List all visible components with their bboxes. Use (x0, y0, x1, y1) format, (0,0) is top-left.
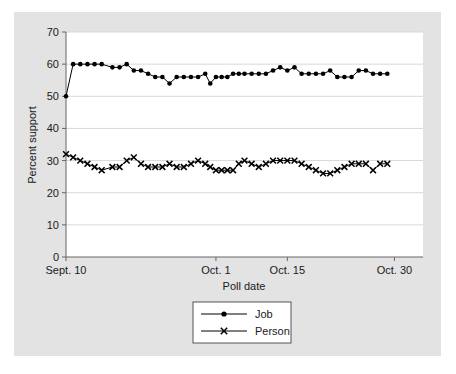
data-point-marker (153, 75, 158, 80)
y-tick-label: 0 (53, 251, 59, 263)
data-point-marker (364, 68, 369, 73)
data-point-marker (271, 68, 276, 73)
data-point-marker (203, 71, 208, 76)
data-point-marker (196, 75, 201, 80)
legend-label: Person (255, 325, 290, 337)
data-point-marker (225, 75, 230, 80)
data-point-marker (256, 71, 261, 76)
poll-support-line-chart: 010203040506070 Sept. 10Oct. 1Oct. 15Oct… (0, 0, 456, 374)
data-point-marker (146, 71, 151, 76)
data-point-marker (285, 68, 290, 73)
y-tick-label: 70 (47, 26, 59, 38)
data-point-marker (219, 75, 224, 80)
data-point-marker (378, 71, 383, 76)
data-point-marker (264, 71, 269, 76)
data-point-marker (221, 311, 226, 316)
data-point-marker (71, 62, 76, 67)
data-point-marker (174, 75, 179, 80)
data-point-marker (132, 68, 137, 73)
data-point-marker (306, 71, 311, 76)
y-tick-label: 50 (47, 90, 59, 102)
data-point-marker (64, 94, 69, 99)
data-point-marker (299, 71, 304, 76)
data-point-marker (117, 65, 122, 70)
x-tick-label: Oct. 30 (377, 264, 412, 276)
x-tick-label: Sept. 10 (46, 264, 87, 276)
data-point-marker (278, 65, 283, 70)
data-point-marker (328, 68, 333, 73)
chart-canvas: 010203040506070 Sept. 10Oct. 1Oct. 15Oct… (0, 0, 456, 374)
data-point-marker (124, 62, 129, 67)
data-point-marker (321, 71, 326, 76)
y-tick-label: 10 (47, 219, 59, 231)
data-point-marker (92, 62, 97, 67)
data-point-marker (242, 71, 247, 76)
data-point-marker (214, 75, 219, 80)
data-point-marker (314, 71, 319, 76)
data-point-marker (160, 75, 165, 80)
data-point-marker (335, 75, 340, 80)
data-point-marker (371, 71, 376, 76)
data-point-marker (208, 81, 213, 86)
y-tick-label: 60 (47, 58, 59, 70)
chart-figure: 010203040506070 Sept. 10Oct. 1Oct. 15Oct… (0, 0, 456, 374)
chart-legend: JobPerson (193, 302, 291, 343)
data-point-marker (189, 75, 194, 80)
y-tick-label: 30 (47, 155, 59, 167)
x-tick-label: Oct. 1 (201, 264, 230, 276)
data-point-marker (110, 65, 115, 70)
y-tick-label: 20 (47, 187, 59, 199)
data-point-marker (99, 62, 104, 67)
data-point-marker (385, 71, 390, 76)
data-point-marker (139, 68, 144, 73)
data-point-marker (85, 62, 90, 67)
data-point-marker (292, 65, 297, 70)
data-point-marker (236, 71, 241, 76)
data-point-marker (167, 81, 172, 86)
legend-label: Job (255, 308, 273, 320)
data-point-marker (182, 75, 187, 80)
y-tick-label: 40 (47, 122, 59, 134)
data-point-marker (356, 68, 361, 73)
data-point-marker (249, 71, 254, 76)
data-point-marker (78, 62, 83, 67)
x-tick-label: Oct. 15 (270, 264, 305, 276)
data-point-marker (342, 75, 347, 80)
y-axis-title: Percent support (26, 106, 38, 184)
x-axis-title: Poll date (223, 280, 266, 292)
data-point-marker (349, 75, 354, 80)
data-point-marker (231, 71, 236, 76)
